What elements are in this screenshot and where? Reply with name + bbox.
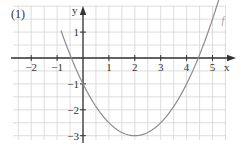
figure-label: (1): [11, 7, 25, 21]
x-tick-label: 3: [158, 61, 164, 73]
y-tick-label: 1: [74, 26, 80, 38]
x-axis-label: x: [224, 61, 230, 73]
parabola-curve-f: [61, 0, 220, 136]
x-tick-label: 5: [210, 61, 216, 73]
x-tick-label: −1: [51, 61, 63, 73]
y-axis-label: y: [72, 4, 78, 16]
x-tick-label: 2: [132, 61, 138, 73]
y-tick-label: −3: [67, 130, 79, 142]
y-tick-label: −1: [67, 78, 79, 90]
grid-lines: [13, 6, 226, 140]
y-tick-label: −2: [67, 104, 79, 116]
x-tick-label: −2: [25, 61, 37, 73]
x-tick-label: 4: [184, 61, 190, 73]
y-axis-arrow-icon: [80, 6, 86, 15]
function-graph: −2−1123451−1−2−3 (1) x y f: [0, 0, 241, 150]
curve-label-f: f: [222, 15, 226, 26]
x-tick-label: 1: [106, 61, 112, 73]
